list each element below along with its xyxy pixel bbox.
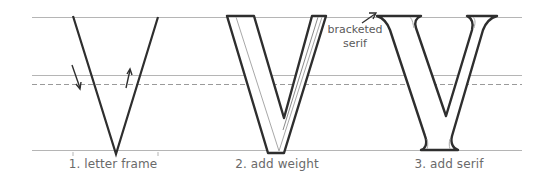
v-right-inner-line	[283, 17, 318, 130]
serif-annotation: bracketed serif	[320, 23, 390, 51]
up-stroke-arrow-icon	[126, 69, 132, 88]
v-serif-outline	[377, 16, 497, 150]
annotation-line-1: bracketed	[320, 23, 390, 37]
step-3-caption: 3. add serif	[415, 157, 484, 171]
down-stroke-arrow-icon	[72, 65, 81, 89]
step-2-caption: 2. add weight	[235, 157, 318, 171]
step-1-caption: 1. letter frame	[69, 157, 158, 171]
annotation-line-2: serif	[320, 37, 390, 51]
step-1-letter-frame	[72, 16, 158, 156]
letter-v-construction-diagram: bracketed serif 1. letter frame 2. add w…	[0, 0, 552, 185]
step-3-add-serif	[377, 16, 497, 150]
